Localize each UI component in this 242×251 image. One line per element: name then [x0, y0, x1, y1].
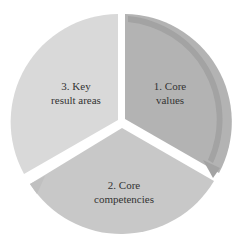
label-core-values-1: 1. Core: [154, 80, 187, 92]
cycle-diagram: 1. Core values 2. Core competencies 3. K…: [0, 0, 242, 251]
label-core-competencies-2: competencies: [94, 193, 154, 205]
label-core-values-2: values: [156, 94, 184, 106]
label-key-result-areas-1: 3. Key: [61, 80, 91, 92]
label-core-competencies-1: 2. Core: [108, 179, 141, 191]
label-key-result-areas-2: result areas: [51, 94, 101, 106]
